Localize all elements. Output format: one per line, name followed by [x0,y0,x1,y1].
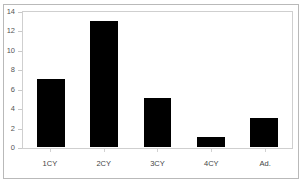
bar-slot [184,13,237,147]
y-axis-tick-mark [18,31,22,32]
bar-slot [77,13,130,147]
truncated-caption [4,0,254,3]
y-axis-tick-label: 8 [11,64,15,75]
bar-slot [24,13,77,147]
y-axis-tick-label: 4 [11,103,15,114]
plot-area [23,12,292,148]
y-axis-tick-mark [18,148,22,149]
y-axis-tick-mark [18,109,22,110]
y-axis-tick-label: 12 [7,25,15,36]
y-axis-tick-mark [18,12,22,13]
x-axis-category-label: Ad. [259,159,270,168]
x-axis-label-slot: 4CY [184,152,238,170]
y-axis-tick-label: 10 [7,45,15,56]
x-axis-category-label: 4CY [204,159,219,168]
bar [37,79,65,147]
x-axis-label-slot: 1CY [23,152,77,170]
y-axis-tick-label: 14 [7,6,15,17]
bar [90,21,118,147]
x-axis-label-slot: Ad. [238,152,292,170]
x-axis-labels: 1CY2CY3CY4CYAd. [23,152,292,170]
y-axis-tick-mark [18,70,22,71]
bar-slot [131,13,184,147]
y-axis-tick-label: 2 [11,123,15,134]
bar [144,98,172,147]
bar-slot [238,13,291,147]
y-axis-tick-mark [18,90,22,91]
bar-chart-figure: 02468101214 1CY2CY3CY4CYAd. [0,0,302,183]
x-axis-label-slot: 3CY [131,152,185,170]
y-axis-tick-mark [18,129,22,130]
y-axis-tick-label: 0 [11,142,15,153]
x-axis-category-label: 2CY [96,159,111,168]
bar [250,118,278,147]
x-axis-label-slot: 2CY [77,152,131,170]
x-axis-category-label: 3CY [150,159,165,168]
plot-frame [22,11,293,149]
y-axis-tick-label: 6 [11,84,15,95]
x-axis-category-label: 1CY [43,159,58,168]
bar-series [24,13,291,147]
y-axis-tick-mark [18,51,22,52]
bar [197,137,225,147]
